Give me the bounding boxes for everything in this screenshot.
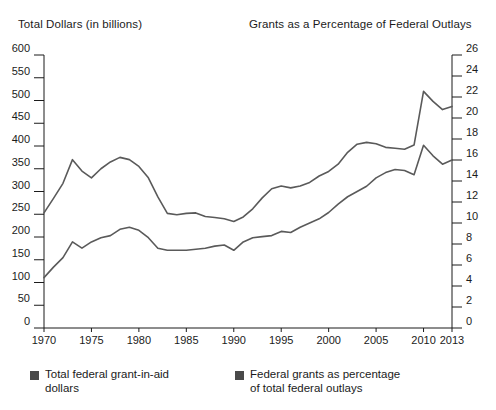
legend-label: Total federal grant-in-aid dollars xyxy=(45,368,169,395)
right-tick-label: 0 xyxy=(466,315,492,327)
legend-swatch-icon xyxy=(235,371,244,380)
right-tick-label: 20 xyxy=(466,105,492,117)
chart-axes xyxy=(34,55,462,332)
right-tick-label: 4 xyxy=(466,273,492,285)
left-tick-label: 550 xyxy=(4,65,30,77)
right-tick-label: 6 xyxy=(466,252,492,264)
legend-swatch-icon xyxy=(30,371,39,380)
legend-item-total-dollars: Total federal grant-in-aid dollars xyxy=(30,368,230,395)
left-tick-label: 200 xyxy=(4,224,30,236)
right-tick-label: 22 xyxy=(466,84,492,96)
left-tick-label: 0 xyxy=(4,315,30,327)
right-tick-label: 24 xyxy=(466,63,492,75)
x-tick-label: 1990 xyxy=(214,334,254,346)
chart-plot-area xyxy=(0,0,496,410)
left-tick-label: 300 xyxy=(4,179,30,191)
left-tick-label: 250 xyxy=(4,201,30,213)
right-tick-label: 12 xyxy=(466,189,492,201)
x-tick-label: 2013 xyxy=(432,334,472,346)
x-tick-label: 1985 xyxy=(166,334,206,346)
left-tick-label: 600 xyxy=(4,42,30,54)
right-tick-label: 2 xyxy=(466,294,492,306)
right-tick-label: 18 xyxy=(466,126,492,138)
legend-item-percentage: Federal grants as percentage of total fe… xyxy=(235,368,465,395)
right-tick-label: 14 xyxy=(466,168,492,180)
left-tick-label: 500 xyxy=(4,88,30,100)
left-tick-label: 150 xyxy=(4,247,30,259)
x-tick-label: 1995 xyxy=(261,334,301,346)
right-tick-label: 16 xyxy=(466,147,492,159)
x-tick-label: 2005 xyxy=(356,334,396,346)
legend-label: Federal grants as percentage of total fe… xyxy=(250,368,400,395)
series-line-0 xyxy=(44,91,452,221)
legend-label-line1: Total federal grant-in-aid xyxy=(45,368,169,380)
x-tick-label: 2000 xyxy=(309,334,349,346)
right-tick-label: 26 xyxy=(466,42,492,54)
x-tick-label: 1975 xyxy=(71,334,111,346)
right-tick-label: 10 xyxy=(466,210,492,222)
left-tick-label: 350 xyxy=(4,156,30,168)
left-tick-label: 100 xyxy=(4,270,30,282)
left-tick-label: 400 xyxy=(4,133,30,145)
left-tick-label: 50 xyxy=(4,292,30,304)
x-tick-label: 1980 xyxy=(119,334,159,346)
legend-label-line2: dollars xyxy=(45,382,79,394)
left-tick-label: 450 xyxy=(4,110,30,122)
chart-figure: Total Dollars (in billions) Grants as a … xyxy=(0,0,496,410)
legend-label-line1: Federal grants as percentage xyxy=(250,368,400,380)
x-tick-label: 1970 xyxy=(24,334,64,346)
chart-series-lines xyxy=(44,91,452,277)
legend-label-line2: of total federal outlays xyxy=(250,382,363,394)
right-tick-label: 8 xyxy=(466,231,492,243)
